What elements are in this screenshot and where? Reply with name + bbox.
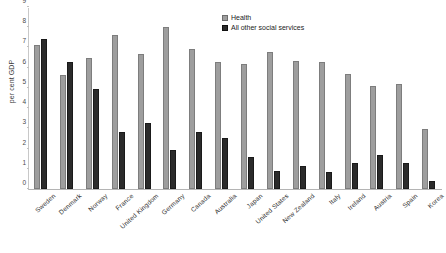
y-axis-label: per cent GDP [8, 47, 15, 117]
bar-group [55, 8, 81, 189]
bar-health [215, 62, 221, 189]
bar-group [365, 8, 391, 189]
bar-all-other-social-services [377, 155, 383, 189]
bar-all-other-social-services [119, 132, 125, 189]
x-tick-label: Spain [401, 192, 419, 209]
y-tick-label: 1 [22, 158, 26, 165]
x-tick-label: Ireland [347, 192, 367, 211]
bar-all-other-social-services [326, 172, 332, 189]
bar-all-other-social-services [41, 39, 47, 189]
bar-chart: per cent GDP 0123456789 SwedenDenmarkNor… [0, 0, 446, 253]
legend-label-other: All other social services [231, 24, 304, 31]
x-tick-label: Norway [86, 192, 108, 213]
bar-health [319, 62, 325, 189]
bar-health [293, 61, 299, 189]
x-axis-tick-labels: SwedenDenmarkNorwayFranceUnited KingdomG… [28, 192, 442, 252]
bar-group [236, 8, 262, 189]
bar-group [340, 8, 366, 189]
bars-layer [29, 8, 442, 189]
bar-all-other-social-services [145, 123, 151, 189]
bar-all-other-social-services [300, 166, 306, 189]
bar-health [189, 49, 195, 189]
y-tick-label: 6 [22, 57, 26, 64]
y-tick-label: 5 [22, 77, 26, 84]
legend-item-other: All other social services [222, 24, 304, 31]
y-tick-label: 7 [22, 37, 26, 44]
y-tick-label: 2 [22, 138, 26, 145]
bar-health [370, 86, 376, 189]
x-tick-label: Sweden [34, 192, 57, 214]
bar-all-other-social-services [93, 89, 99, 189]
bar-health [345, 74, 351, 189]
bar-health [241, 64, 247, 189]
x-tick-label: Australia [213, 192, 238, 215]
bar-health [422, 129, 428, 189]
bar-all-other-social-services [196, 132, 202, 189]
chart-legend: Health All other social services [222, 14, 304, 34]
bar-group [184, 8, 210, 189]
y-tick-label: 0 [22, 179, 26, 186]
y-tick-mark [27, 6, 29, 7]
bar-all-other-social-services [352, 163, 358, 189]
x-tick-label: Korea [426, 192, 444, 209]
x-tick-label: Denmark [57, 192, 82, 216]
bar-health [163, 27, 169, 189]
bar-all-other-social-services [429, 181, 435, 189]
x-tick-label: Italy [327, 192, 341, 206]
bar-health [60, 75, 66, 189]
x-tick-label: France [114, 192, 135, 212]
bar-group [288, 8, 314, 189]
bar-group [391, 8, 417, 189]
y-tick-label: 3 [22, 118, 26, 125]
bar-health [112, 35, 118, 189]
bar-all-other-social-services [403, 163, 409, 189]
bar-health [396, 84, 402, 189]
bar-all-other-social-services [222, 138, 228, 189]
bar-group [29, 8, 55, 189]
x-tick-label: Austria [372, 192, 393, 212]
bar-all-other-social-services [67, 62, 73, 189]
x-tick-label: Germany [160, 192, 186, 216]
y-tick-label: 4 [22, 98, 26, 105]
bar-group [417, 8, 443, 189]
bar-group [81, 8, 107, 189]
bar-group [262, 8, 288, 189]
y-tick-label: 9 [22, 0, 26, 4]
bar-all-other-social-services [248, 157, 254, 189]
bar-health [267, 52, 273, 190]
bar-all-other-social-services [274, 171, 280, 189]
y-tick-label: 8 [22, 17, 26, 24]
x-tick-label: Canada [189, 192, 212, 213]
plot-area: 0123456789 [28, 8, 442, 190]
x-tick-label: Japan [245, 192, 264, 210]
bar-health [34, 45, 40, 189]
legend-label-health: Health [231, 14, 251, 21]
bar-group [158, 8, 184, 189]
bar-health [138, 54, 144, 189]
bar-health [86, 58, 92, 189]
legend-item-health: Health [222, 14, 304, 21]
bar-group [314, 8, 340, 189]
bar-all-other-social-services [170, 150, 176, 189]
legend-swatch-health-icon [222, 15, 228, 21]
bar-group [210, 8, 236, 189]
bar-group [107, 8, 133, 189]
bar-group [133, 8, 159, 189]
legend-swatch-other-icon [222, 25, 228, 31]
